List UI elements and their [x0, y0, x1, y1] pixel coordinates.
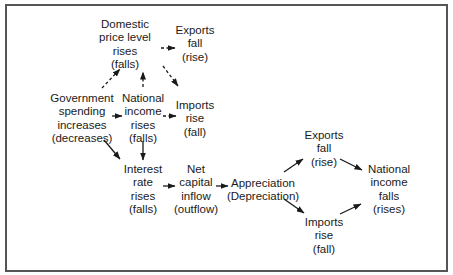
node-line: (rise)	[305, 156, 344, 169]
node-line: income	[122, 105, 164, 118]
node-line: National	[368, 163, 410, 176]
arrow-government-to-price-level	[102, 69, 120, 88]
arrow-price-level-to-imports	[163, 66, 178, 86]
node-national-income-final: National income falls (rises)	[368, 163, 410, 217]
node-line: (rises)	[368, 203, 410, 216]
node-interest-rate: Interest rate rises (falls)	[124, 163, 162, 217]
arrow-appreciation-to-exports	[284, 159, 303, 172]
node-line: income	[368, 176, 410, 189]
node-line: (outflow)	[174, 203, 218, 216]
node-exports-right: Exports fall (rise)	[305, 129, 344, 169]
node-line: rise	[305, 229, 343, 242]
node-line: Imports	[176, 99, 214, 112]
node-imports-right: Imports rise (fall)	[305, 216, 343, 256]
node-line: (fall)	[176, 126, 214, 139]
node-line: (rise)	[176, 51, 215, 64]
node-line: capital	[174, 176, 218, 189]
node-line: (fall)	[305, 243, 343, 256]
node-line: Exports	[176, 24, 215, 37]
node-line: falls	[368, 190, 410, 203]
node-exports-top: Exports fall (rise)	[176, 24, 215, 64]
node-line: Exports	[305, 129, 344, 142]
node-net-capital-inflow: Net capital inflow (outflow)	[174, 163, 218, 217]
node-line: (decreases)	[50, 132, 113, 145]
node-line: rise	[176, 112, 214, 125]
node-line: inflow	[174, 190, 218, 203]
node-line: rises	[99, 45, 151, 58]
node-line: spending	[50, 105, 113, 118]
node-line: (falls)	[122, 132, 164, 145]
node-line: (falls)	[124, 203, 162, 216]
node-line: (Depreciation)	[227, 190, 299, 203]
node-line: rises	[124, 190, 162, 203]
node-line: National	[122, 92, 164, 105]
node-appreciation: Appreciation (Depreciation)	[227, 177, 299, 204]
node-line: rate	[124, 176, 162, 189]
node-line: fall	[305, 142, 344, 155]
node-line: price level	[99, 31, 151, 44]
node-line: increases	[50, 119, 113, 132]
node-government-spending: Government spending increases (decreases…	[50, 92, 113, 146]
node-line: Imports	[305, 216, 343, 229]
node-imports-mid: Imports rise (fall)	[176, 99, 214, 139]
node-line: rises	[122, 119, 164, 132]
node-national-income-mid: National income rises (falls)	[122, 92, 164, 146]
node-line: Government	[50, 92, 113, 105]
node-line: Net	[174, 163, 218, 176]
node-line: Interest	[124, 163, 162, 176]
arrow-imports-to-national-income	[340, 204, 361, 214]
node-line: (falls)	[99, 58, 151, 71]
node-domestic-price-level: Domestic price level rises (falls)	[99, 18, 151, 72]
node-line: Domestic	[99, 18, 151, 31]
node-line: Appreciation	[227, 177, 299, 190]
node-line: fall	[176, 37, 215, 50]
